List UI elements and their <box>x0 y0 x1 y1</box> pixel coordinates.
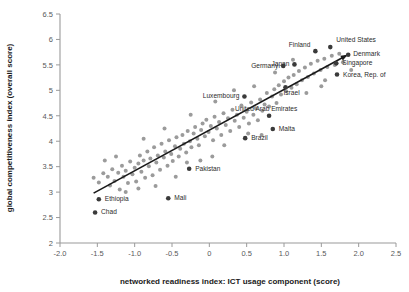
data-point <box>209 124 213 128</box>
point-label: Germany <box>251 62 279 70</box>
data-point <box>134 179 138 183</box>
point-label: Malta <box>279 125 295 132</box>
data-point <box>103 159 107 163</box>
labeled-data-point <box>334 61 339 66</box>
data-point <box>136 187 140 191</box>
labeled-data-point <box>93 210 98 215</box>
x-axis-title: networked readiness index: ICT usage com… <box>120 277 340 286</box>
data-point <box>151 173 155 177</box>
x-tick-label: -2.0 <box>54 249 67 258</box>
data-point <box>322 57 326 61</box>
data-point <box>128 160 132 164</box>
data-point <box>251 113 255 117</box>
x-tick-label: 1.0 <box>279 249 289 258</box>
data-point <box>219 133 223 137</box>
data-point <box>185 161 189 165</box>
data-point <box>163 127 167 131</box>
point-label: United States <box>336 36 376 43</box>
data-point <box>291 58 295 62</box>
y-tick-label: 5 <box>49 86 53 95</box>
data-point <box>166 164 170 168</box>
data-point <box>210 154 214 158</box>
data-point <box>118 188 122 192</box>
data-point <box>142 159 146 163</box>
x-tick-label: 0.5 <box>241 249 251 258</box>
data-point <box>242 116 246 120</box>
data-point <box>177 154 181 158</box>
data-point <box>106 175 110 179</box>
y-tick-label: 2 <box>49 239 53 248</box>
labeled-data-point <box>346 52 351 57</box>
data-point <box>154 161 158 165</box>
data-point <box>171 159 175 163</box>
data-point <box>319 84 323 88</box>
y-tick-label: 3 <box>49 188 53 197</box>
labeled-data-point <box>271 127 276 132</box>
data-point <box>201 121 205 125</box>
y-tick-label: 2.5 <box>43 213 53 222</box>
point-label: Mali <box>174 194 187 201</box>
data-point <box>139 170 143 174</box>
y-axis-title: global competitiveness index (overall sc… <box>5 43 14 212</box>
data-point <box>174 135 178 139</box>
labeled-data-point <box>242 94 247 99</box>
point-label: Luxembourg <box>203 92 240 100</box>
data-point <box>167 138 171 142</box>
data-point <box>279 92 283 96</box>
data-point <box>213 115 217 119</box>
y-tick-label: 4.5 <box>43 112 53 121</box>
point-label: Korea, Rep. of <box>343 71 386 79</box>
data-point <box>292 73 296 77</box>
data-point <box>138 153 142 157</box>
data-point <box>148 157 152 161</box>
data-point <box>114 154 118 158</box>
data-point <box>197 143 201 147</box>
data-point <box>330 54 334 58</box>
data-point <box>304 91 308 95</box>
point-label: Pakistan <box>195 165 221 172</box>
labeled-data-point <box>187 166 192 171</box>
data-point <box>133 166 137 170</box>
point-label: Chad <box>101 208 117 215</box>
data-point <box>316 59 320 63</box>
data-point <box>160 142 164 146</box>
data-point <box>224 123 228 127</box>
data-point <box>101 171 105 175</box>
labeled-data-point <box>267 113 272 118</box>
data-point <box>124 190 128 194</box>
labeled-data-point <box>313 49 318 54</box>
data-point <box>158 168 162 172</box>
labeled-data-point <box>292 62 297 67</box>
data-point <box>228 129 232 133</box>
data-point <box>203 134 207 138</box>
labeled-data-point <box>335 72 340 77</box>
labeled-data-point <box>281 64 286 69</box>
data-point <box>222 143 226 147</box>
data-point <box>252 84 256 88</box>
data-point <box>265 91 269 95</box>
labeled-data-point <box>166 196 171 201</box>
data-point <box>213 100 217 104</box>
y-tick-label: 4 <box>49 137 53 146</box>
data-point <box>116 171 120 175</box>
data-point <box>97 180 101 184</box>
y-tick-label: 3.5 <box>43 162 53 171</box>
data-point <box>246 132 250 136</box>
data-point <box>211 138 215 142</box>
data-point <box>198 159 202 163</box>
labeled-data-point <box>328 45 333 50</box>
data-point <box>192 132 196 136</box>
data-point <box>222 111 226 115</box>
data-point <box>189 113 193 117</box>
data-point <box>204 118 208 122</box>
data-point <box>126 181 130 185</box>
scatter-chart: -2.0-1.5-1.0-0.500.51.01.52.02.5 22.533.… <box>0 0 409 292</box>
data-point <box>303 65 307 69</box>
data-point <box>152 145 156 149</box>
x-tick-label: 2.5 <box>391 249 401 258</box>
data-point <box>136 162 140 166</box>
data-point <box>110 167 114 171</box>
point-label: Singapore <box>342 59 372 67</box>
data-point <box>124 169 128 173</box>
point-label: Israel <box>283 89 300 96</box>
